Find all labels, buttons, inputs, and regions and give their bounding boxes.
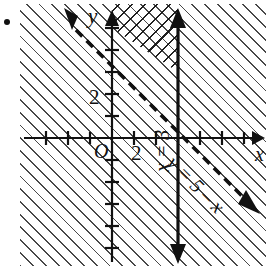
list-bullet-marker bbox=[4, 19, 10, 25]
y-tick-label-2: 2 bbox=[89, 87, 100, 108]
inequality-graph-figure: y x O 2 2 x = 3 y = 5 – x bbox=[0, 0, 277, 273]
y-axis-label: y bbox=[88, 6, 97, 27]
y-axis bbox=[105, 10, 119, 262]
origin-label: O bbox=[94, 141, 108, 161]
graph-overlay bbox=[20, 4, 266, 266]
line-y-equals-5-minus-x bbox=[64, 8, 260, 214]
plot-area bbox=[20, 4, 266, 266]
x-axis bbox=[24, 131, 265, 145]
x-tick-label-2: 2 bbox=[131, 143, 142, 164]
x-axis-label: x bbox=[255, 144, 264, 164]
